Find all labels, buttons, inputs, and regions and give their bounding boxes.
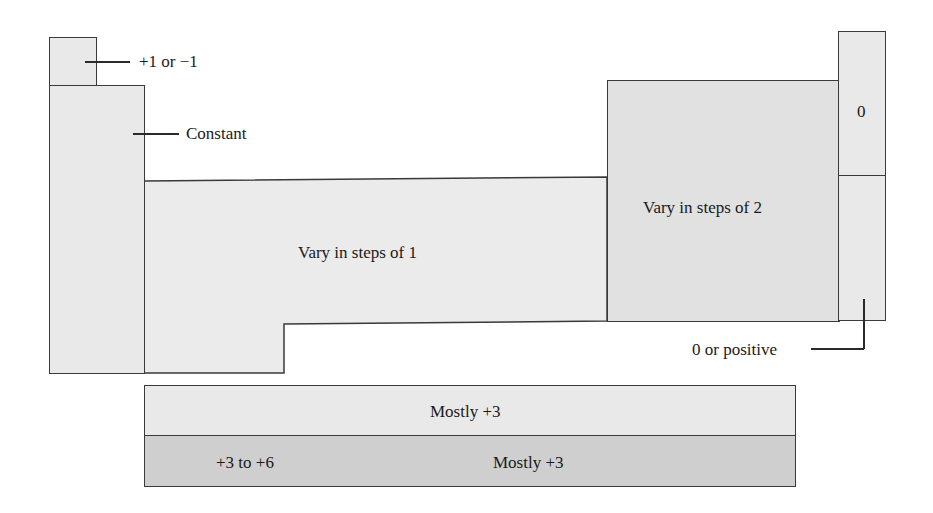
actinides-early-label: +3 to +6 (216, 454, 274, 471)
hydrogen-label: +1 or −1 (139, 53, 198, 70)
d-block-label: Vary in steps of 1 (298, 244, 417, 261)
noble-gas-lower-label: 0 or positive (692, 341, 777, 358)
s-block-leader-line (133, 133, 179, 135)
s-block-label: Constant (186, 125, 246, 142)
p-block-label: Vary in steps of 2 (643, 199, 762, 216)
hydrogen-leader-line (85, 61, 130, 63)
noble-lower-leader-horizontal (811, 348, 864, 350)
lanthanides-label: Mostly +3 (430, 403, 501, 420)
noble-gas-lower-region (838, 175, 886, 321)
actinides-late-label: Mostly +3 (493, 454, 564, 471)
d-block-shape (144, 177, 607, 373)
s-block-region (49, 85, 145, 374)
noble-gas-upper-label: 0 (857, 103, 866, 120)
noble-lower-leader-vertical (863, 299, 865, 349)
